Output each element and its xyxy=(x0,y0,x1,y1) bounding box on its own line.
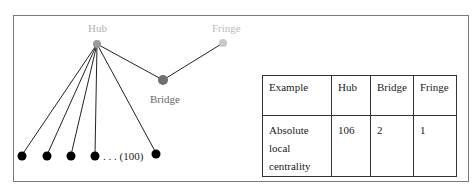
row-label-line: centrality xyxy=(269,157,325,175)
row-label: Absolute local centrality xyxy=(263,116,332,177)
edges xyxy=(22,43,223,155)
leaf-node xyxy=(91,152,100,161)
edge-hub-leaf-2 xyxy=(47,44,97,155)
leaf-node xyxy=(18,152,27,161)
leaf-node xyxy=(67,152,76,161)
table-row: Absolute local centrality 106 2 1 xyxy=(263,116,457,177)
bridge-node xyxy=(158,75,168,85)
fringe-node xyxy=(219,39,227,47)
header-bridge: Bridge xyxy=(371,76,414,116)
leaf-count-label: . . . (100) xyxy=(103,150,144,163)
fringe-label: Fringe xyxy=(212,22,241,34)
header-hub: Hub xyxy=(332,76,371,116)
row-label-line: local xyxy=(269,139,325,157)
hub-label: Hub xyxy=(88,22,107,34)
edge-hub-leaf-1 xyxy=(22,44,97,155)
cell-bridge: 2 xyxy=(371,116,414,177)
cell-fringe: 1 xyxy=(413,116,456,177)
row-label-line: Absolute xyxy=(269,121,325,139)
leaf-node xyxy=(43,152,52,161)
header-example: Example xyxy=(263,76,332,116)
leaf-node xyxy=(152,150,161,159)
header-fringe: Fringe xyxy=(413,76,456,116)
bridge-label: Bridge xyxy=(150,93,180,105)
cell-hub: 106 xyxy=(332,116,371,177)
edge-hub-leaf-4 xyxy=(95,44,97,155)
edge-bridge-fringe xyxy=(163,43,223,80)
edge-hub-leaf-3 xyxy=(71,44,97,155)
hub-node xyxy=(93,40,101,48)
centrality-table: Example Hub Bridge Fringe Absolute local… xyxy=(262,75,457,177)
table-header-row: Example Hub Bridge Fringe xyxy=(263,76,457,116)
